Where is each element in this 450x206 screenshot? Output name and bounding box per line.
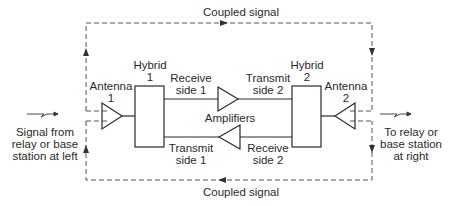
- bottom-coupled-label: Coupled signal: [191, 186, 291, 198]
- bottom-coupled-path: [86, 121, 372, 180]
- antenna2-triangle-icon: [335, 103, 355, 129]
- transmit-side1-label: Transmit side 1: [163, 142, 219, 166]
- lower-amplifier-icon: [219, 125, 240, 149]
- receive-side2-label: Receive side 2: [240, 142, 296, 166]
- transmit-side2-label: Transmit side 2: [240, 72, 296, 96]
- hybrid1-box: [135, 86, 164, 147]
- receive-side1-label: Receive side 1: [163, 72, 219, 96]
- bottom-left-arrow-icon: [218, 177, 226, 183]
- outgoing-signal-icon: [380, 114, 411, 117]
- left-up-arrow-icon-2: [83, 145, 89, 153]
- top-right-arrow-icon: [220, 20, 228, 26]
- top-coupled-label: Coupled signal: [191, 6, 291, 18]
- diagram-graphics: [0, 0, 450, 206]
- antenna2-label: Antenna 2: [318, 80, 374, 104]
- upper-amplifier-icon: [218, 87, 238, 111]
- antenna1-label: Antenna 1: [83, 80, 139, 104]
- repeater-diagram: Coupled signal Coupled signal Hybrid 1 H…: [0, 0, 450, 206]
- right-signal-label: To relay or base station at right: [374, 126, 448, 162]
- left-up-arrow-icon-1: [83, 48, 89, 56]
- incoming-signal-icon: [27, 114, 58, 117]
- left-signal-label: Signal from relay or base station at lef…: [8, 126, 82, 162]
- hybrid2-box: [292, 86, 321, 147]
- amplifiers-label: Amplifiers: [195, 112, 265, 124]
- right-down-arrow-icon-1: [369, 48, 375, 56]
- antenna1-triangle-icon: [102, 103, 122, 129]
